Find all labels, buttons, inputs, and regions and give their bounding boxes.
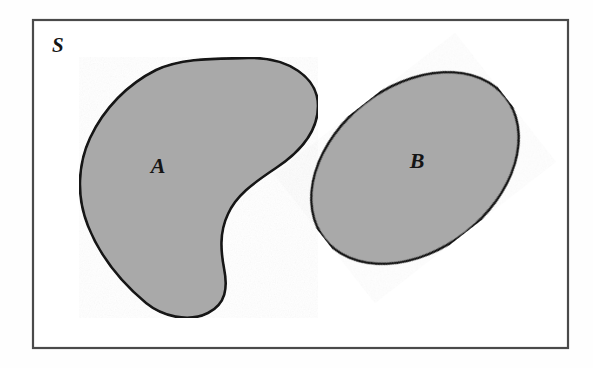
set-diagram-canvas: S A B <box>0 0 593 368</box>
set-label-a: A <box>149 153 166 178</box>
set-diagram: S A B <box>0 0 593 368</box>
universal-set-label: S <box>52 33 64 57</box>
set-label-b: B <box>409 148 425 173</box>
